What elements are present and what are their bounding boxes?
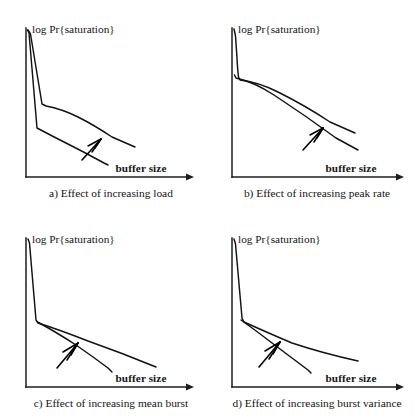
increase-arrow-icon <box>303 128 323 150</box>
x-axis-arrowhead-icon <box>186 173 194 180</box>
panel-d-plot: log Pr{saturation} buffer size <box>210 210 420 396</box>
x-axis-label: buffer size <box>326 372 377 384</box>
y-axis-label: log Pr{saturation} <box>238 233 321 245</box>
panel-d: log Pr{saturation} buffer size d) Effect… <box>210 210 420 420</box>
y-axis-label: log Pr{saturation} <box>32 233 115 245</box>
panel-c-caption: c) Effect of increasing mean burst <box>0 396 216 410</box>
panel-d-caption: d) Effect of increasing burst variance <box>210 396 420 410</box>
y-axis-label: log Pr{saturation} <box>238 23 321 35</box>
figure-grid: log Pr{saturation} buffer size a) Effect… <box>0 0 420 420</box>
x-axis-arrowhead-icon <box>186 383 194 390</box>
y-axis-label: log Pr{saturation} <box>32 23 115 35</box>
x-axis-arrowhead-icon <box>396 383 404 390</box>
curve-upper <box>234 239 358 361</box>
panel-a-caption: a) Effect of increasing load <box>0 186 216 200</box>
panel-a-plot: log Pr{saturation} buffer size <box>0 0 210 186</box>
curve-upper <box>234 29 355 133</box>
x-axis-label: buffer size <box>116 372 167 384</box>
curve-lower <box>235 75 359 150</box>
panel-b: log Pr{saturation} buffer size b) Effect… <box>210 0 420 210</box>
x-axis-label: buffer size <box>116 162 167 174</box>
panel-c-plot: log Pr{saturation} buffer size <box>0 210 210 396</box>
curve-upper <box>28 30 135 147</box>
panel-b-plot: log Pr{saturation} buffer size <box>210 0 420 186</box>
panel-b-caption: b) Effect of increasing peak rate <box>210 186 420 200</box>
x-axis-label: buffer size <box>326 162 377 174</box>
x-axis-arrowhead-icon <box>396 173 404 180</box>
increase-arrow-icon <box>57 343 78 368</box>
curve-upper <box>28 239 156 367</box>
panel-a: log Pr{saturation} buffer size a) Effect… <box>0 0 210 210</box>
panel-c: log Pr{saturation} buffer size c) Effect… <box>0 210 210 420</box>
increase-arrow-icon <box>259 342 280 367</box>
